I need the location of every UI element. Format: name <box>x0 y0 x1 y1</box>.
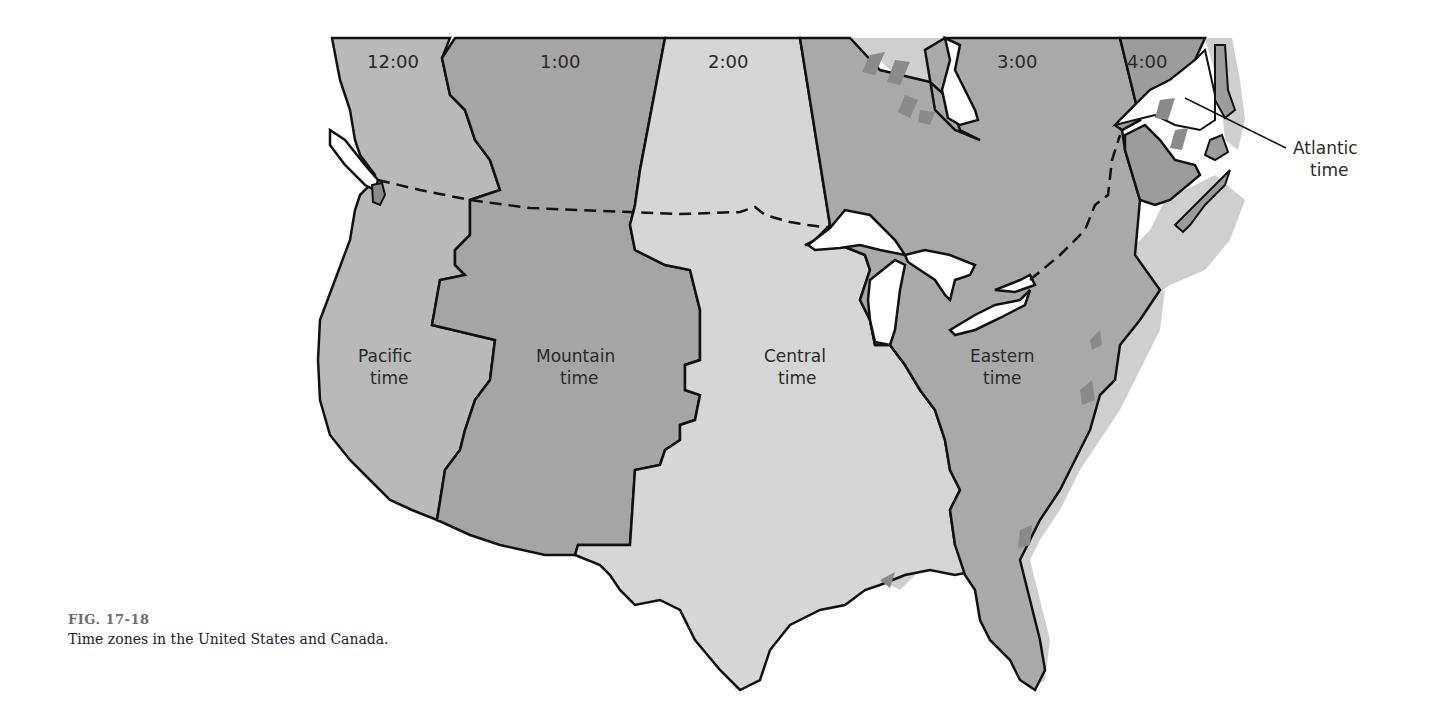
atlantic-callout-label: Atlantic time <box>1293 138 1358 180</box>
figure-caption-text: Time zones in the United States and Cana… <box>68 630 428 649</box>
svg-text:Central: Central <box>764 346 826 366</box>
svg-text:time: time <box>983 368 1021 388</box>
svg-text:time: time <box>370 368 408 388</box>
svg-text:time: time <box>1310 160 1348 180</box>
svg-text:Pacific: Pacific <box>358 346 412 366</box>
hour-label-central: 2:00 <box>708 51 748 72</box>
svg-text:Atlantic: Atlantic <box>1293 138 1358 158</box>
svg-text:time: time <box>778 368 816 388</box>
figure-caption: FIG. 17-18 Time zones in the United Stat… <box>68 612 428 649</box>
hour-label-atlantic: 4:00 <box>1127 51 1167 72</box>
figure-number: FIG. 17-18 <box>68 612 428 627</box>
svg-text:Mountain: Mountain <box>536 346 615 366</box>
svg-text:time: time <box>560 368 598 388</box>
hour-label-eastern: 3:00 <box>997 51 1037 72</box>
hour-label-pacific: 12:00 <box>367 51 419 72</box>
svg-text:Eastern: Eastern <box>970 346 1035 366</box>
zone-atlantic-pei <box>1205 135 1228 160</box>
hour-label-mountain: 1:00 <box>540 51 580 72</box>
